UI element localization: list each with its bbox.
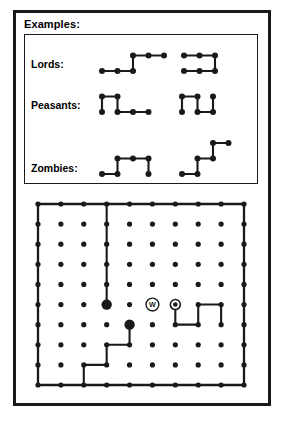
grid-dot: [241, 302, 246, 307]
legend-shape-dot: [195, 171, 201, 177]
legend-shape-peasants-shape-right: [179, 94, 216, 116]
legend-shape-dot: [179, 109, 185, 115]
legend-shape-dot: [197, 68, 203, 74]
grid-dot: [81, 302, 86, 307]
legend-shape-dot: [99, 171, 105, 177]
legend-shape-dot: [197, 53, 203, 59]
grid-dot: [127, 382, 132, 387]
legend-shape-zombies-shape-left: [99, 156, 152, 178]
legend-shapes-canvas: [24, 34, 258, 184]
grid-dot: [35, 302, 40, 307]
grid-dot: [241, 342, 246, 347]
grid-dot: [81, 282, 86, 287]
grid-dot: [58, 222, 63, 227]
legend-shape-dot: [130, 109, 136, 115]
legend-shape-dot: [210, 109, 216, 115]
legend-shape-dot: [212, 68, 218, 74]
grid-dot: [35, 242, 40, 247]
grid-dot: [219, 342, 224, 347]
grid-dot: [219, 362, 224, 367]
legend-shape-dot: [210, 156, 216, 162]
grid-dot: [58, 322, 63, 327]
grid-dot: [81, 342, 86, 347]
grid-dot: [173, 382, 178, 387]
grid-dot: [241, 362, 246, 367]
grid-dot: [196, 302, 201, 307]
legend-shape-line: [182, 143, 229, 174]
legend-shape-dot: [179, 94, 185, 100]
grid-right-loop-path: [175, 305, 221, 325]
legend-shape-dot: [181, 53, 187, 59]
legend-shape-dot: [195, 109, 201, 115]
grid-big-dot-left: [101, 299, 111, 309]
grid-dot: [150, 322, 155, 327]
grid-dot: [173, 242, 178, 247]
grid-dot: [150, 201, 155, 206]
grid-dot: [127, 242, 132, 247]
legend-shape-dot: [99, 109, 105, 115]
grid-dot: [35, 362, 40, 367]
grid-dot: [58, 382, 63, 387]
grid-dot: [150, 262, 155, 267]
grid-dot: [104, 382, 109, 387]
legend-shape-dot: [146, 156, 152, 162]
legend-shape-dot: [161, 53, 167, 59]
grid-dot: [81, 322, 86, 327]
grid-dot: [150, 242, 155, 247]
marker-label-w: W: [149, 300, 156, 309]
grid-dot: [81, 262, 86, 267]
grid-dot: [104, 342, 109, 347]
marker-ring-center-dot: [173, 302, 178, 307]
grid-dot: [58, 201, 63, 206]
grid-dot: [173, 222, 178, 227]
grid-dot: [104, 201, 109, 206]
grid-dot: [219, 201, 224, 206]
grid-dot: [241, 382, 246, 387]
grid-dot: [127, 302, 132, 307]
grid-dot: [127, 362, 132, 367]
legend-shape-dot: [195, 156, 201, 162]
legend-shape-dot: [146, 109, 152, 115]
grid-dot: [196, 222, 201, 227]
grid-dot: [35, 322, 40, 327]
legend-shape-dot: [210, 94, 216, 100]
grid-dot: [127, 201, 132, 206]
grid-dot: [35, 342, 40, 347]
grid-dot: [241, 282, 246, 287]
grid-dot: [58, 342, 63, 347]
grid-dot: [196, 362, 201, 367]
grid-dot: [58, 282, 63, 287]
grid-dot: [58, 302, 63, 307]
grid-dot: [173, 322, 178, 327]
grid-dot: [127, 222, 132, 227]
grid-dot: [81, 382, 86, 387]
grid-dot: [150, 222, 155, 227]
grid-dot: [196, 322, 201, 327]
grid-dot: [35, 201, 40, 206]
grid-dot: [173, 282, 178, 287]
grid-dot: [35, 282, 40, 287]
grid-dot: [173, 342, 178, 347]
grid-dot: [241, 262, 246, 267]
legend-shape-dot: [115, 171, 121, 177]
grid-dot: [150, 282, 155, 287]
legend-shape-dot: [212, 53, 218, 59]
legend-shape-dot: [179, 171, 185, 177]
grid-dot: [196, 201, 201, 206]
grid-dot: [196, 242, 201, 247]
main-grid-canvas: W: [24, 192, 258, 397]
grid-dot: [58, 242, 63, 247]
grid-dot: [219, 322, 224, 327]
legend-shape-dot: [99, 94, 105, 100]
legend-shape-dot: [146, 53, 152, 59]
figure-root: Examples: Lords: Peasants: Zombies: W: [0, 0, 284, 423]
legend-shape-dot: [130, 156, 136, 162]
legend-shape-peasants-shape-left: [99, 94, 152, 116]
grid-dot: [58, 262, 63, 267]
grid-dot: [35, 382, 40, 387]
legend-shape-dot: [146, 171, 152, 177]
grid-dot: [81, 222, 86, 227]
legend-shape-dot: [181, 68, 187, 74]
grid-dot: [241, 222, 246, 227]
grid-staircase-path-bottom-left: [84, 325, 130, 385]
